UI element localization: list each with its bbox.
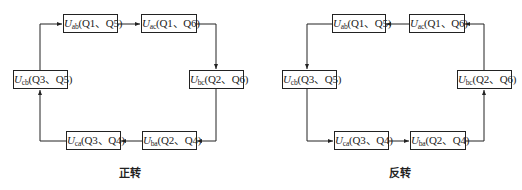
- reverse-state-uca: Uca(Q3、Q4): [334, 131, 389, 150]
- reverse-caption: 反转: [389, 164, 411, 180]
- switch-pair: (Q2、Q4): [157, 134, 201, 146]
- voltage-symbol: U: [67, 134, 75, 146]
- forward-state-uba: Uba(Q2、Q4): [142, 131, 197, 150]
- reverse-state-ubc: Ubc(Q2、Q6): [457, 70, 512, 89]
- switch-pair: (Q3、Q5): [28, 73, 72, 85]
- switch-pair: (Q2、Q4): [425, 134, 469, 146]
- voltage-symbol: U: [64, 17, 72, 29]
- forward-state-uab: Uab(Q1、Q5): [63, 14, 118, 33]
- forward-caption: 正转: [119, 164, 141, 180]
- reverse-state-uac: Uac(Q1、Q6): [409, 14, 465, 33]
- voltage-symbol: U: [458, 73, 466, 85]
- switch-pair: (Q3、Q5): [297, 73, 341, 85]
- voltage-symbol: U: [190, 73, 198, 85]
- voltage-symbol: U: [14, 73, 22, 85]
- voltage-symbol: U: [143, 134, 151, 146]
- voltage-symbol: U: [335, 134, 343, 146]
- forward-state-ucb: Ucb(Q3、Q5): [13, 70, 68, 89]
- switch-pair: (Q2、Q6): [472, 73, 516, 85]
- voltage-symbol: U: [142, 17, 150, 29]
- voltage-symbol: U: [410, 17, 418, 29]
- voltage-symbol: U: [283, 73, 291, 85]
- switch-pair: (Q1、Q6): [424, 17, 468, 29]
- switch-pair: (Q1、Q5): [347, 17, 391, 29]
- forward-state-uca: Uca(Q3、Q4): [66, 131, 121, 150]
- switch-pair: (Q3、Q4): [349, 134, 393, 146]
- switch-pair: (Q1、Q5): [78, 17, 122, 29]
- forward-state-ubc: Ubc(Q2、Q6): [189, 70, 244, 89]
- forward-state-uac: Uac(Q1、Q6): [141, 14, 197, 33]
- reverse-state-uab: Uab(Q1、Q5): [332, 14, 386, 33]
- voltage-symbol: U: [333, 17, 341, 29]
- reverse-state-uba: Uba(Q2、Q4): [410, 131, 466, 150]
- switch-pair: (Q3、Q4): [81, 134, 125, 146]
- switch-pair: (Q2、Q6): [204, 73, 248, 85]
- switch-pair: (Q1、Q6): [156, 17, 200, 29]
- voltage-symbol: U: [411, 134, 419, 146]
- reverse-state-ucb: Ucb(Q3、Q5): [282, 70, 337, 89]
